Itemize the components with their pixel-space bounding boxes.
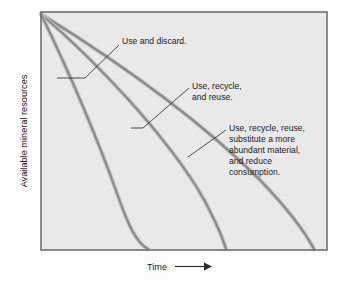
annotation-use-and-discard: Use and discard. — [122, 36, 187, 46]
x-axis-label: Time — [147, 262, 167, 272]
resource-depletion-chart: Use and discard. Use, recycle, and reuse… — [0, 0, 346, 283]
annotation-line: abundant material, — [229, 145, 300, 155]
annotation-line: substitute a more — [229, 134, 295, 144]
annotation-line: consumption. — [229, 167, 280, 177]
x-axis-arrow-icon — [175, 263, 212, 271]
annotation-line: and reuse. — [192, 92, 233, 102]
annotation-line: Use, recycle, reuse, — [229, 123, 305, 133]
annotation-line: and reduce — [229, 156, 272, 166]
annotation-line: Use, recycle, — [192, 81, 242, 91]
y-axis-label: Available mineral resources — [19, 74, 29, 187]
annotation-line: Use and discard. — [122, 36, 187, 46]
